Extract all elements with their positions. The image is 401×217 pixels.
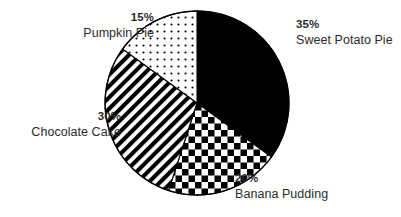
pie-label-sweet-potato-pie-percent: 35% xyxy=(296,17,393,32)
pie-label-banana-pudding-percent: 20% xyxy=(235,171,328,186)
pie-label-sweet-potato-pie: 35% Sweet Potato Pie xyxy=(296,17,393,49)
pie-label-banana-pudding-name: Banana Pudding xyxy=(235,186,328,203)
pie-label-chocolate-cake-name: Chocolate Cake xyxy=(31,124,121,141)
pie-label-chocolate-cake: 30% Chocolate Cake xyxy=(31,109,121,141)
pie-label-banana-pudding: 20% Banana Pudding xyxy=(235,171,328,203)
pie-label-pumpkin-pie-percent: 15% xyxy=(83,10,154,25)
pie-label-pumpkin-pie: 15% Pumpkin Pie xyxy=(83,10,154,42)
pie-label-sweet-potato-pie-name: Sweet Potato Pie xyxy=(296,32,393,49)
pie-chart-figure: 15% Pumpkin Pie 35% Sweet Potato Pie 30%… xyxy=(0,0,401,217)
pie-label-pumpkin-pie-name: Pumpkin Pie xyxy=(83,25,154,42)
pie-label-chocolate-cake-percent: 30% xyxy=(31,109,121,124)
